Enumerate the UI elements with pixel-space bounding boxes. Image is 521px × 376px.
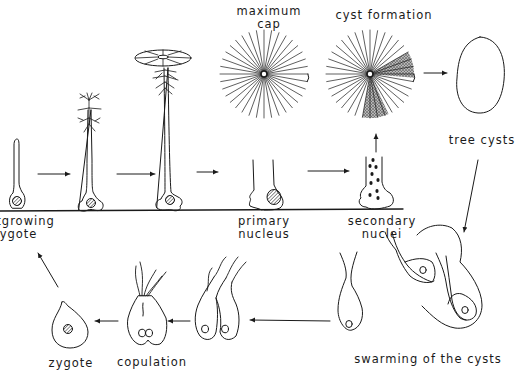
primary-nucleus-stage bbox=[249, 160, 283, 210]
nucleus bbox=[267, 190, 281, 205]
label-secondary-nuclei: secondary nuclei bbox=[346, 215, 418, 241]
maximum-cap-disc bbox=[220, 30, 309, 118]
label-outgrowing-zygote: outgrowing zygote bbox=[0, 215, 50, 241]
arrow-10 bbox=[38, 253, 58, 287]
free-cyst bbox=[457, 37, 505, 113]
label-swarming: swarming of the cysts bbox=[348, 353, 508, 366]
copulation-cell bbox=[127, 262, 166, 345]
label-copulation: copulation bbox=[116, 356, 188, 369]
gametes-pair bbox=[195, 257, 246, 339]
swarmer-cell bbox=[338, 252, 363, 330]
outgrowing-zygote-cell bbox=[9, 139, 25, 208]
cyst-formation-disc bbox=[326, 30, 415, 118]
label-secondary-line2: nuclei bbox=[346, 228, 418, 241]
life-cycle-diagram: maximum cap cyst formation tree cysts ou… bbox=[0, 0, 521, 376]
label-outgrowing-line2: zygote bbox=[0, 228, 50, 241]
stalk-with-whorls bbox=[78, 93, 103, 211]
nucleus bbox=[87, 199, 96, 208]
nucleus bbox=[166, 196, 175, 205]
secondary-nuclei-stage bbox=[359, 157, 393, 209]
arrow-7 bbox=[250, 320, 330, 321]
label-maximum-cap: maximum cap bbox=[224, 5, 314, 31]
substrate-line bbox=[0, 209, 403, 211]
label-free-cysts: tree cysts bbox=[442, 134, 521, 147]
nucleus bbox=[13, 197, 22, 206]
nucleus bbox=[64, 325, 73, 334]
label-primary-nucleus: primary nucleus bbox=[234, 215, 294, 241]
arrow-6 bbox=[464, 160, 478, 232]
secondary-nuclei-dots bbox=[368, 158, 379, 200]
zygote-cell bbox=[52, 301, 88, 348]
young-cap-stage bbox=[135, 50, 191, 211]
label-cyst-formation: cyst formation bbox=[334, 9, 434, 22]
label-zygote: zygote bbox=[46, 357, 96, 370]
label-maximum-cap-line2: cap bbox=[224, 18, 314, 31]
label-primary-line2: nucleus bbox=[234, 228, 294, 241]
